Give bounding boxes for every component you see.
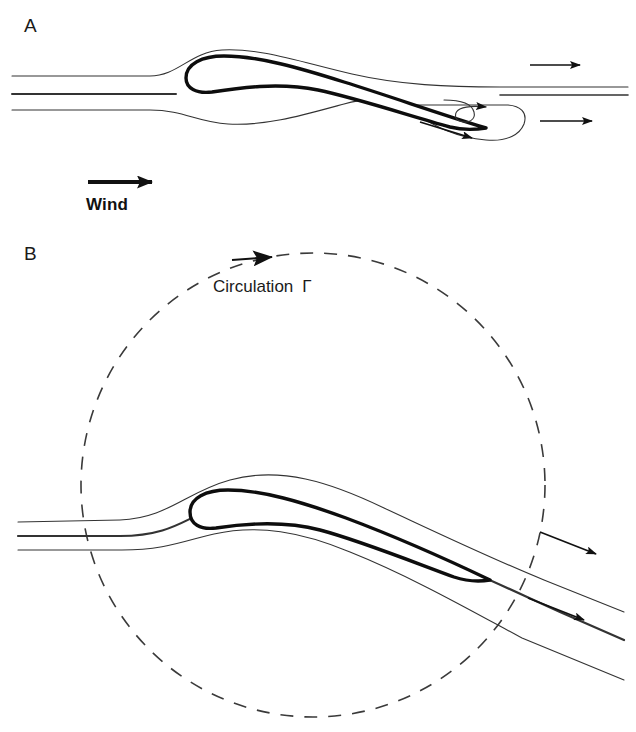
wind-label: Wind: [86, 196, 128, 213]
flow-arrow-upper-right: [540, 532, 596, 554]
circulation-label: CirculationΓ: [213, 278, 312, 295]
circulation-text: Circulation: [213, 277, 293, 296]
airfoil-cross-section: [190, 490, 490, 581]
circulation-circle-dashed: [81, 253, 545, 717]
circulation-arrowhead: [232, 257, 272, 260]
figure-root: A: [0, 0, 636, 732]
flow-arrow-lower-right: [528, 598, 584, 620]
panel-a: A: [0, 0, 636, 236]
panel-b: B: [0, 236, 636, 732]
gamma-symbol: Γ: [302, 277, 311, 296]
airfoil-cross-section: [186, 56, 486, 129]
stagnation-streamline: [12, 94, 628, 95]
upper-streamline: [18, 475, 624, 612]
panel-b-drawing: [0, 236, 636, 732]
lower-streamline: [18, 530, 624, 680]
